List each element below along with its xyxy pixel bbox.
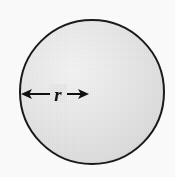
radius-diagram: r: [0, 0, 175, 177]
radius-label: r: [54, 84, 62, 105]
circle-shape: [20, 20, 164, 164]
figure-container: r: [0, 0, 175, 177]
